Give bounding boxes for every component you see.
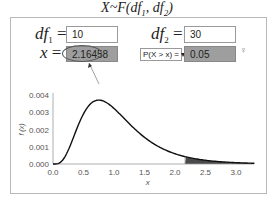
x-axis-label: x bbox=[145, 178, 151, 187]
y-tick-label: 0.001 bbox=[29, 143, 50, 152]
x-tick-label: 2.5 bbox=[200, 168, 212, 177]
y-axis-label: f (x) bbox=[18, 123, 26, 135]
x-tick-label: 3.0 bbox=[230, 168, 242, 177]
x-tick-label: 1.5 bbox=[139, 168, 151, 177]
y-tick-label: 0.004 bbox=[29, 91, 50, 100]
density-curve bbox=[53, 100, 254, 164]
density-chart: 0.00.51.01.52.02.53.00.0000.0010.0020.00… bbox=[0, 0, 274, 205]
y-tick-label: 0.000 bbox=[29, 160, 50, 169]
y-tick-label: 0.003 bbox=[29, 108, 50, 117]
x-tick-label: 2.0 bbox=[169, 168, 181, 177]
y-tick-label: 0.002 bbox=[29, 126, 50, 135]
x-tick-label: 1.0 bbox=[108, 168, 120, 177]
x-tick-label: 0.0 bbox=[47, 168, 59, 177]
x-tick-label: 0.5 bbox=[78, 168, 90, 177]
